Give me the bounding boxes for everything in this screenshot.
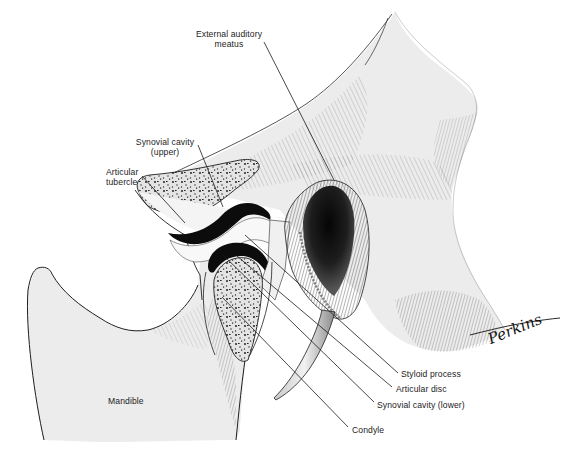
tmj-illustration bbox=[0, 0, 575, 468]
label-mandible: Mandible bbox=[108, 396, 144, 406]
external-auditory-meatus bbox=[285, 180, 369, 319]
label-synovial-cavity-lower: Synovial cavity (lower) bbox=[377, 400, 465, 410]
label-articular-disc: Articular disc bbox=[396, 384, 447, 394]
label-external-auditory-meatus: External auditory meatus bbox=[193, 29, 265, 49]
label-synovial-cavity-upper: Synovial cavity (upper) bbox=[133, 137, 197, 157]
label-articular-tubercle: Articular tubercle bbox=[106, 167, 138, 187]
label-condyle: Condyle bbox=[352, 425, 384, 435]
label-styloid-process: Styloid process bbox=[401, 369, 461, 379]
